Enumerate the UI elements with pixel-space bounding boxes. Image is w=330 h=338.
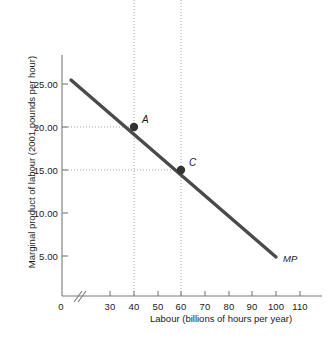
x-tick-label-0: 0	[51, 301, 71, 312]
data-point-c	[177, 166, 185, 174]
x-tick-label-110: 110	[288, 301, 312, 312]
mp-curve	[71, 80, 276, 257]
guide-lines	[62, 0, 181, 295]
x-tick-label-80: 80	[219, 301, 239, 312]
x-tick-label-70: 70	[195, 301, 215, 312]
data-series-mp	[71, 80, 276, 257]
x-tick-label-90: 90	[242, 301, 262, 312]
x-tick-label-60: 60	[171, 301, 191, 312]
axes	[62, 55, 322, 302]
x-axis-title: Labour (billions of hours per year)	[150, 313, 292, 324]
chart-figure: 25.00 20.00 15.00 10.00 5.00 0 30 40 50 …	[0, 0, 330, 338]
x-tick-label-50: 50	[148, 301, 168, 312]
data-points	[130, 123, 185, 174]
x-tick-label-30: 30	[100, 301, 120, 312]
y-axis-title-wrapper: Marginal product of labour (2001 pounds …	[26, 52, 40, 272]
x-tick-label-40: 40	[124, 301, 144, 312]
x-tick-label-100: 100	[264, 301, 288, 312]
data-point-label-a: A	[142, 114, 149, 125]
data-point-label-c: C	[189, 157, 196, 168]
y-axis-title: Marginal product of labour (2001 pounds …	[26, 52, 37, 272]
series-label-mp: MP	[283, 253, 297, 264]
data-point-a	[130, 123, 138, 131]
